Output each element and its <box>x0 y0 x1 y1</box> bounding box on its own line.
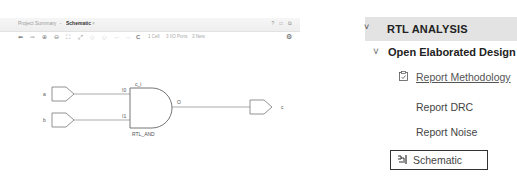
schematic-window: Project Summary ▪ Schematic × ? □ ⧉ ⬅ ➡ … <box>0 14 300 189</box>
cell-instance-name: c_i <box>135 81 141 87</box>
port-label-c: c <box>281 104 284 110</box>
schematic-diagram: a b I0 I1 c_i RTL_AND O c <box>0 44 300 189</box>
tab-schematic[interactable]: Schematic <box>66 20 91 26</box>
select-prev-icon[interactable]: ◇ <box>90 33 95 41</box>
window-controls[interactable]: ? □ ⧉ <box>271 20 294 27</box>
schematic-icon <box>397 154 408 167</box>
port-count[interactable]: 3 I/O Ports <box>166 34 188 39</box>
pin-label-o: O <box>177 99 181 105</box>
forward-icon[interactable]: ➡ <box>30 33 35 41</box>
refresh-icon[interactable]: C <box>136 33 140 41</box>
tab-bar: Project Summary ▪ Schematic × ? □ ⧉ <box>0 18 300 32</box>
cell-type-label: RTL_AND <box>132 131 155 137</box>
schematic-canvas[interactable]: a b I0 I1 c_i RTL_AND O c <box>0 44 300 189</box>
input-port-b[interactable] <box>52 113 74 127</box>
port-label-b: b <box>43 117 46 123</box>
net-count[interactable]: 3 Nets <box>192 34 205 39</box>
report-drc-link[interactable]: Report DRC <box>416 101 473 113</box>
schematic-link[interactable]: Schematic <box>413 154 462 166</box>
port-label-a: a <box>43 91 46 97</box>
zoom-area-icon[interactable]: ⤢ <box>78 33 83 41</box>
report-noise-link[interactable]: Report Noise <box>416 126 477 138</box>
report-methodology-link[interactable]: Report Methodology <box>416 71 511 83</box>
back-icon[interactable]: ⬅ <box>18 33 23 41</box>
chevron-down-icon[interactable]: ˅ <box>373 46 379 57</box>
tab-project-summary[interactable]: Project Summary <box>18 20 56 26</box>
zoom-in-icon[interactable]: ⊕ <box>42 33 47 41</box>
flow-navigator: ˅ RTL ANALYSIS ˅ Open Elaborated Design … <box>360 0 517 189</box>
chevron-down-icon[interactable]: ˅ <box>364 22 369 32</box>
open-elaborated-design[interactable]: Open Elaborated Design <box>388 46 516 58</box>
and-gate-cell[interactable] <box>130 88 172 128</box>
zoom-out-icon[interactable]: ⊖ <box>54 33 59 41</box>
redo-icon[interactable]: → <box>125 33 131 41</box>
input-port-a[interactable] <box>52 87 74 101</box>
pin-label-i0: I0 <box>122 87 126 93</box>
cell-count[interactable]: 1 Cell <box>148 34 160 39</box>
section-title: RTL ANALYSIS <box>387 23 468 35</box>
select-next-icon[interactable]: ◇ <box>102 33 107 41</box>
undo-icon[interactable]: ← <box>114 33 120 41</box>
gear-icon[interactable]: ⚙ <box>286 33 292 41</box>
schematic-tab-icon: ▪ <box>60 21 64 25</box>
schematic-toolbar: ⬅ ➡ ⊕ ⊖ ⛶ ⤢ ◇ ◇ ← → C 1 Cell 3 I/O Ports… <box>0 32 300 43</box>
output-port-c[interactable] <box>250 100 272 114</box>
section-rtl-analysis[interactable]: ˅ RTL ANALYSIS <box>365 17 517 41</box>
clipboard-icon <box>399 71 408 83</box>
pin-label-i1: I1 <box>122 113 126 119</box>
zoom-fit-icon[interactable]: ⛶ <box>66 33 70 41</box>
schematic-highlight-box[interactable]: Schematic <box>390 150 488 170</box>
close-tab-icon[interactable]: × <box>92 20 95 26</box>
